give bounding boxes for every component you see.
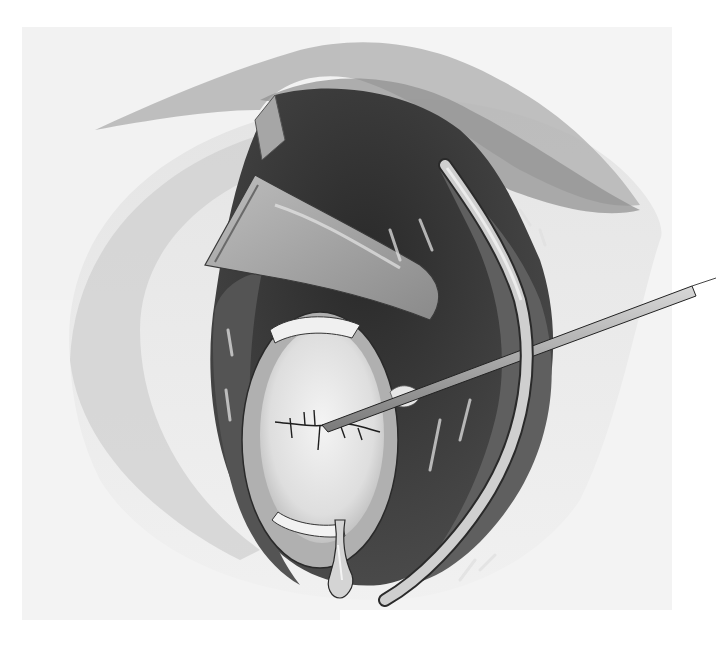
organ-surface	[260, 327, 384, 543]
illustration-svg	[0, 0, 722, 652]
surgical-illustration	[0, 0, 722, 652]
needle-tip-line	[692, 278, 716, 286]
